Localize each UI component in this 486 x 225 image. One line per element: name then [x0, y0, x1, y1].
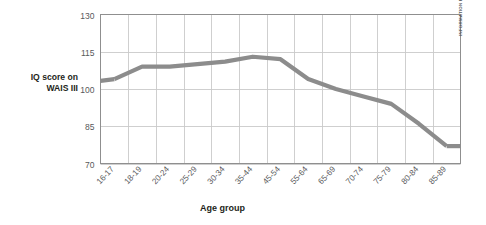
x-tick-label: 25-29: [178, 164, 199, 186]
y-tick-label: 100: [80, 85, 94, 95]
x-tick-label: 75-79: [372, 164, 393, 186]
data-series: [101, 57, 461, 146]
y-tick-label: 130: [80, 11, 94, 21]
x-tick-label: 45-54: [261, 164, 282, 186]
plot-frame: [101, 15, 461, 164]
line-chart: 7085100115130 16-1718-1920-2425-2930-343…: [0, 0, 486, 225]
x-tick-labels: 16-1718-1920-2425-2930-3435-4445-5455-64…: [95, 164, 448, 186]
x-tick-label: 85-89: [427, 164, 448, 186]
x-tick-label: 70-74: [344, 164, 365, 186]
series-line-left-cap: [101, 79, 115, 81]
x-tick-label: 30-34: [206, 164, 227, 186]
source-credit: INFORMATION FROM KAUFMAN, 2001.: [458, 0, 463, 36]
chart-figure: IQ score on WAIS III 7085100115130 16-17…: [0, 0, 486, 225]
x-tick-label: 18-19: [123, 164, 144, 186]
y-tick-label: 85: [85, 122, 95, 132]
x-tick-label: 65-69: [316, 164, 337, 186]
y-tick-labels: 7085100115130: [80, 11, 94, 170]
x-tick-label: 80-84: [400, 164, 421, 186]
series-line: [114, 57, 446, 146]
x-tick-label: 16-17: [95, 164, 116, 186]
x-tick-label: 55-64: [289, 164, 310, 186]
x-axis-title: Age group: [200, 203, 245, 213]
y-tick-label: 70: [85, 160, 95, 170]
x-tick-label: 35-44: [233, 164, 254, 186]
x-tick-label: 20-24: [150, 164, 171, 186]
y-tick-label: 115: [81, 48, 95, 58]
gridlines: [101, 15, 461, 165]
